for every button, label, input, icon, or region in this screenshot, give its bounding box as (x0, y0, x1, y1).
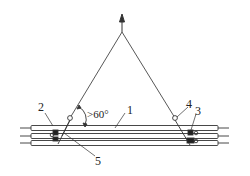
pipe-lifting-diagram (0, 0, 250, 176)
leader-lines (45, 107, 196, 156)
lift-arrow-icon (120, 14, 125, 32)
label-5: 5 (95, 155, 101, 167)
angle-marker (77, 105, 87, 127)
left-shackle-icon (68, 116, 73, 121)
label-2: 2 (38, 101, 44, 113)
label-4: 4 (186, 98, 192, 110)
label-3: 3 (195, 105, 201, 117)
sling (70, 32, 175, 118)
angle-label: >60° (87, 109, 109, 120)
label-1: 1 (127, 104, 133, 116)
right-shackle-icon (173, 116, 178, 121)
